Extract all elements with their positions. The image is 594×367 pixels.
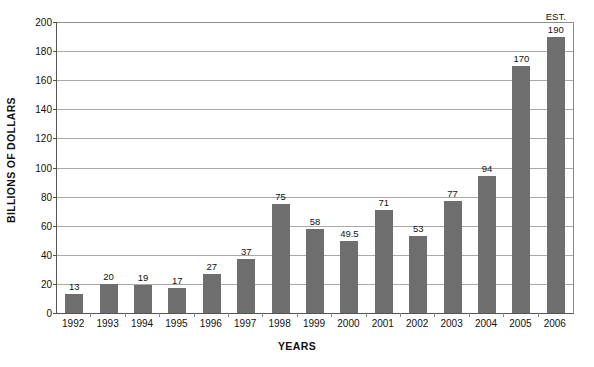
y-axis-tick-label: 180 bbox=[24, 46, 52, 57]
bar-group[interactable]: 53 bbox=[401, 22, 435, 313]
bar[interactable] bbox=[168, 288, 186, 313]
x-axis-tick-label: 1996 bbox=[200, 318, 222, 329]
bar-value-label: 20 bbox=[103, 271, 114, 282]
x-axis-tick-label: 1995 bbox=[165, 318, 187, 329]
x-axis-tick-mark bbox=[297, 313, 298, 317]
bar-value-label: 75 bbox=[275, 191, 286, 202]
bar-value-label: 49.5 bbox=[340, 228, 359, 239]
x-axis-tick-mark bbox=[434, 313, 435, 317]
bar-group[interactable]: 27 bbox=[195, 22, 229, 313]
bar-value-label: 170 bbox=[513, 53, 529, 64]
bar[interactable] bbox=[306, 229, 324, 313]
x-axis-tick-mark bbox=[366, 313, 367, 317]
x-axis-tick-mark bbox=[538, 313, 539, 317]
y-axis-tick-label: 120 bbox=[24, 133, 52, 144]
x-axis-tick-mark bbox=[331, 313, 332, 317]
bar-value-label: 53 bbox=[413, 223, 424, 234]
y-axis-tick-label: 140 bbox=[24, 104, 52, 115]
x-axis-tick-mark bbox=[400, 313, 401, 317]
x-axis-tick-label: 1993 bbox=[96, 318, 118, 329]
x-axis-tick-label: 1997 bbox=[234, 318, 256, 329]
plot-area: 132019172737755849.571537794170190EST. bbox=[56, 22, 574, 314]
bar-group[interactable]: 190EST. bbox=[539, 22, 573, 313]
bar-value-label: 37 bbox=[241, 246, 252, 257]
bar-value-label: 71 bbox=[378, 197, 389, 208]
x-axis-tick-label: 1992 bbox=[62, 318, 84, 329]
bar-value-label: 19 bbox=[138, 272, 149, 283]
bar[interactable] bbox=[375, 210, 393, 313]
x-axis-tick-mark bbox=[262, 313, 263, 317]
bar-value-label: 94 bbox=[482, 163, 493, 174]
bar[interactable] bbox=[134, 285, 152, 313]
bar-group[interactable]: 49.5 bbox=[332, 22, 366, 313]
x-axis-tick-label: 1998 bbox=[268, 318, 290, 329]
bar-group[interactable]: 75 bbox=[263, 22, 297, 313]
x-axis-tick-label: 2003 bbox=[440, 318, 462, 329]
bar-group[interactable]: 20 bbox=[91, 22, 125, 313]
bar-value-label: 77 bbox=[447, 188, 458, 199]
bar-group[interactable]: 71 bbox=[367, 22, 401, 313]
x-axis-tick-mark bbox=[503, 313, 504, 317]
y-axis-tick-label: 40 bbox=[24, 249, 52, 260]
bar-group[interactable]: 17 bbox=[160, 22, 194, 313]
x-axis-tick-mark bbox=[159, 313, 160, 317]
y-axis-tick-label: 200 bbox=[24, 17, 52, 28]
y-axis-tick-label: 80 bbox=[24, 191, 52, 202]
x-axis-tick-label: 2000 bbox=[337, 318, 359, 329]
bar-group[interactable]: 58 bbox=[298, 22, 332, 313]
x-axis-tick-mark bbox=[194, 313, 195, 317]
y-axis-tick-label: 100 bbox=[24, 162, 52, 173]
bar[interactable] bbox=[237, 259, 255, 313]
bar[interactable] bbox=[203, 274, 221, 313]
x-axis-tick-mark bbox=[90, 313, 91, 317]
bar-value-label: 13 bbox=[69, 281, 80, 292]
y-axis-title: BILLIONS OF DOLLARS bbox=[0, 0, 22, 320]
x-axis-tick-label: 1999 bbox=[303, 318, 325, 329]
bar[interactable] bbox=[444, 201, 462, 313]
x-axis-tick-mark bbox=[125, 313, 126, 317]
x-axis-title: YEARS bbox=[0, 340, 594, 352]
bar[interactable] bbox=[478, 176, 496, 313]
bar-group[interactable]: 94 bbox=[470, 22, 504, 313]
y-axis-tick-label: 160 bbox=[24, 75, 52, 86]
bar[interactable] bbox=[65, 294, 83, 313]
bar[interactable] bbox=[547, 37, 565, 313]
y-axis-tick-label: 60 bbox=[24, 220, 52, 231]
x-axis-tick-label: 2001 bbox=[372, 318, 394, 329]
bar-value-label: 190 bbox=[548, 24, 564, 35]
x-axis-tick-label: 1994 bbox=[131, 318, 153, 329]
bar-group[interactable]: 170 bbox=[504, 22, 538, 313]
bar[interactable] bbox=[512, 66, 530, 313]
bar[interactable] bbox=[340, 241, 358, 313]
bar[interactable] bbox=[272, 204, 290, 313]
x-axis-tick-label: 2005 bbox=[509, 318, 531, 329]
bar-annotation-label: EST. bbox=[546, 11, 566, 22]
bars-layer: 132019172737755849.571537794170190EST. bbox=[57, 22, 573, 313]
bar-group[interactable]: 13 bbox=[57, 22, 91, 313]
bar-chart: BILLIONS OF DOLLARS 20018016014012010080… bbox=[0, 0, 594, 367]
y-axis-title-text: BILLIONS OF DOLLARS bbox=[5, 97, 17, 223]
y-axis-tick-label: 0 bbox=[24, 308, 52, 319]
bar-group[interactable]: 37 bbox=[229, 22, 263, 313]
y-axis-tick-labels: 200180160140120100806040200 bbox=[24, 22, 52, 313]
bar[interactable] bbox=[100, 284, 118, 313]
bar-group[interactable]: 19 bbox=[126, 22, 160, 313]
x-axis-tick-label: 2004 bbox=[475, 318, 497, 329]
bar-value-label: 27 bbox=[206, 261, 217, 272]
y-axis-tick-label: 20 bbox=[24, 278, 52, 289]
x-axis-tick-label: 2006 bbox=[544, 318, 566, 329]
x-axis-tick-label: 2002 bbox=[406, 318, 428, 329]
x-axis-tick-mark bbox=[228, 313, 229, 317]
x-axis-tick-labels: 1992199319941995199619971998199920002001… bbox=[56, 318, 572, 334]
bar-value-label: 58 bbox=[310, 216, 321, 227]
bar-group[interactable]: 77 bbox=[435, 22, 469, 313]
bar[interactable] bbox=[409, 236, 427, 313]
x-axis-tick-mark bbox=[469, 313, 470, 317]
bar-value-label: 17 bbox=[172, 275, 183, 286]
